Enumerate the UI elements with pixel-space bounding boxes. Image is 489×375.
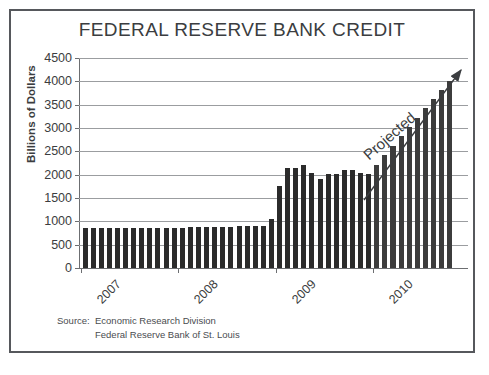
bar [277,186,282,268]
y-tick-label: 500 [51,238,72,252]
x-tick-label: 2007 [94,277,124,307]
bar [196,227,201,268]
bar [180,228,185,268]
y-tick-mark [75,175,79,176]
source-line-1: Source:Economic Research Division [57,314,240,328]
bar [261,226,266,268]
bar [164,228,169,268]
plot-area: 050010001500200025003000350040004500 [79,58,468,268]
bar [439,90,444,268]
x-tick-mark [276,268,277,273]
gridline [79,81,468,82]
x-tick-label: 2008 [191,277,221,307]
bar [326,174,331,268]
bar [390,146,395,268]
bar [228,227,233,268]
bar [123,228,128,268]
x-tick-mark [81,268,82,273]
y-tick-mark [75,198,79,199]
y-tick-mark [75,128,79,129]
chart-title: FEDERAL RESERVE BANK CREDIT [11,19,473,41]
y-tick-mark [75,58,79,59]
bar [301,165,306,268]
y-axis-line [79,58,80,268]
bar [366,174,371,268]
y-tick-mark [75,245,79,246]
y-tick-mark [75,221,79,222]
bar [220,227,225,268]
source-label: Source: [57,314,95,328]
bar [269,219,274,268]
chart-figure: FEDERAL RESERVE BANK CREDIT Billions of … [9,9,475,353]
bar [309,173,314,268]
bar [431,99,436,268]
y-axis-title: Billions of Dollars [25,65,37,163]
bar [212,227,217,268]
bar [318,179,323,268]
bar [172,228,177,268]
bar [83,228,88,268]
x-tick-label: 2009 [289,277,319,307]
bar [293,168,298,268]
bar [382,155,387,268]
bar [342,170,347,268]
bar [237,226,242,268]
x-tick-mark [373,268,374,273]
bar [374,165,379,268]
bar [91,228,96,268]
source-text-1: Economic Research Division [95,315,216,326]
x-tick-mark [178,268,179,273]
bar [358,173,363,268]
bar [285,168,290,268]
bar [139,228,144,268]
bar [399,136,404,268]
bar [334,174,339,268]
bar [253,226,258,268]
bar [99,228,104,268]
bar [204,227,209,268]
y-tick-mark [75,81,79,82]
y-tick-label: 2000 [44,168,72,182]
bar [147,228,152,268]
y-tick-label: 1500 [44,191,72,205]
y-tick-label: 4500 [44,51,72,65]
bar [350,170,355,268]
bar [131,228,136,268]
source-note: Source:Economic Research Division Federa… [57,314,240,342]
bar [107,228,112,268]
bar [188,227,193,268]
y-tick-label: 3000 [44,121,72,135]
source-text-2: Federal Reserve Bank of St. Louis [95,329,240,340]
bar [115,228,120,268]
bar [155,228,160,268]
gridline [79,105,468,106]
x-axis: 2007200820092010 [79,268,468,318]
y-tick-label: 0 [65,261,72,275]
y-tick-mark [75,151,79,152]
bar [423,108,428,268]
source-line-2: Federal Reserve Bank of St. Louis [57,328,240,342]
bar [415,118,420,269]
y-tick-label: 3500 [44,98,72,112]
x-tick-label: 2010 [386,277,416,307]
bar [407,127,412,268]
y-tick-label: 1000 [44,214,72,228]
y-tick-label: 4000 [44,74,72,88]
y-tick-mark [75,105,79,106]
bar [447,81,452,268]
y-tick-label: 2500 [44,144,72,158]
bar [245,226,250,268]
gridline [79,58,468,59]
